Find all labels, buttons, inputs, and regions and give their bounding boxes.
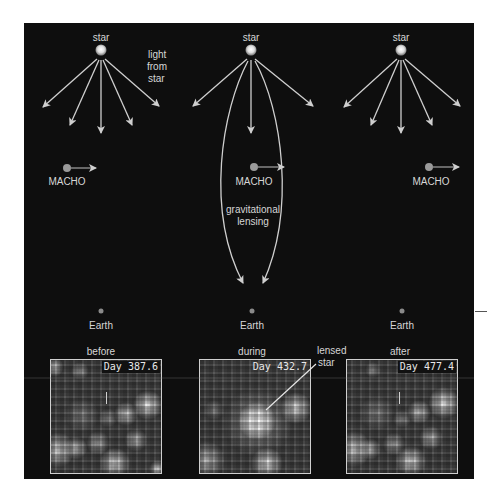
callout-pointer-line [266, 364, 316, 410]
scan-artifact [24, 377, 474, 379]
callout-overlay [0, 0, 487, 491]
